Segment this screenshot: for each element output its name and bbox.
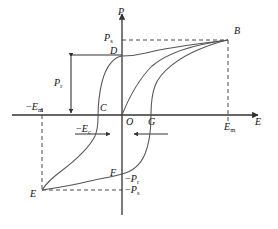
point-label-O: O [126, 117, 133, 127]
point-label-D: D [110, 46, 117, 56]
label-neg-ps-letter: P [131, 184, 137, 195]
label-neg-ec: −Ec [76, 124, 91, 134]
point-label-F: F [110, 168, 116, 178]
point-label-C: C [100, 103, 107, 113]
label-neg-ps: −Ps [125, 185, 139, 195]
label-neg-em-sub: m [38, 106, 43, 113]
x-axis-label: E [255, 117, 261, 127]
y-axis-label: P [118, 7, 124, 17]
pr-bracket [71, 55, 122, 113]
label-pr-bracket-sub: r [60, 82, 62, 89]
label-neg-pr-letter: P [131, 173, 137, 184]
label-neg-ec-sub: c [88, 128, 91, 135]
label-em-sub: m [230, 126, 235, 133]
label-neg-pr-sub: r [137, 178, 139, 185]
label-neg-ps-sub: s [137, 189, 140, 196]
label-neg-em-letter: E [32, 101, 38, 112]
label-pr-bracket: Pr [54, 78, 62, 88]
label-em: Em [224, 122, 235, 132]
label-ps-positive-sub: s [110, 37, 113, 44]
label-neg-pr: −Pr [125, 174, 139, 184]
hysteresis-figure: P E Ps D Pr B C O G −Em Em −Ec F −Pr −Ps… [0, 0, 278, 229]
label-neg-ec-letter: E [82, 123, 88, 134]
point-label-E: E [30, 189, 36, 199]
point-label-B: B [234, 26, 240, 36]
label-ps-positive: Ps [104, 33, 113, 43]
point-label-G: G [148, 117, 155, 127]
label-neg-em: −Em [26, 102, 43, 112]
curve-initial-OB [122, 40, 228, 115]
